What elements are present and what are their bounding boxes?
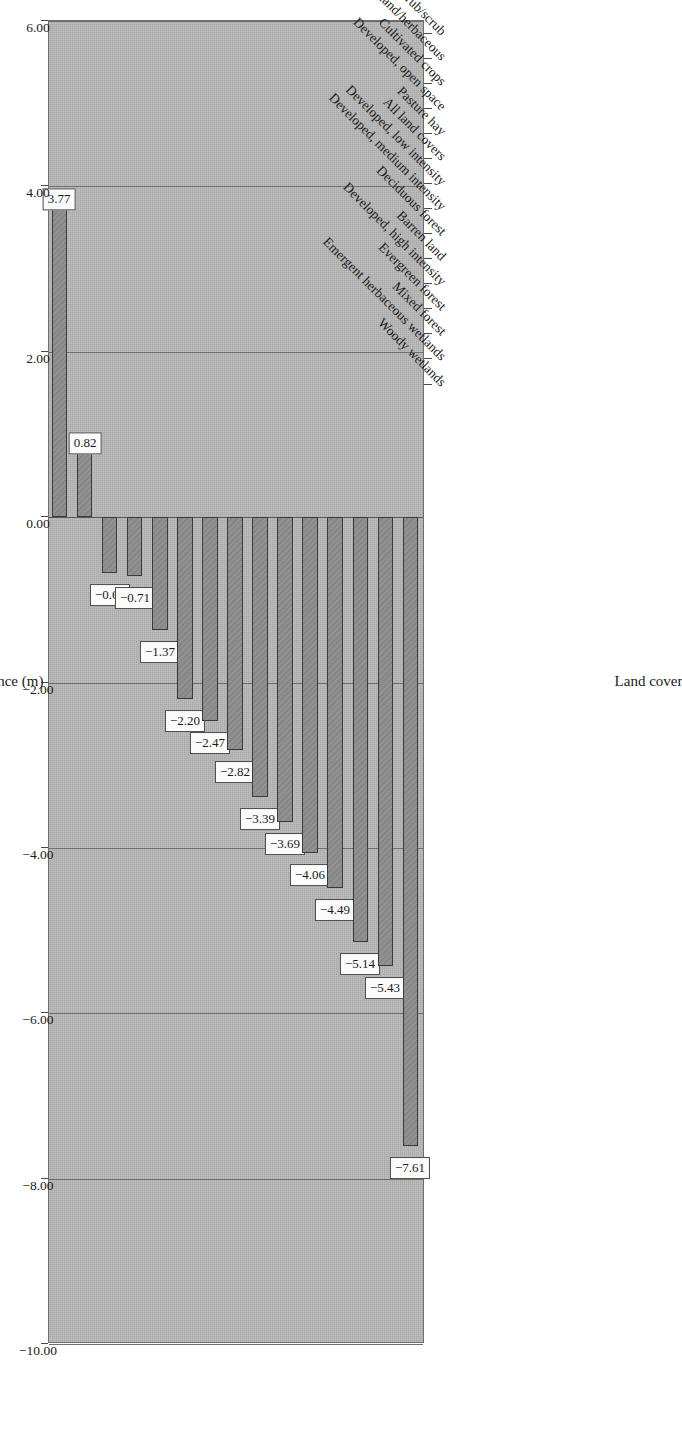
bar	[378, 517, 394, 966]
category-axis-tick	[424, 258, 432, 259]
category-axis-tick	[424, 208, 432, 209]
bar	[252, 517, 268, 797]
category-axis-tick	[424, 358, 432, 359]
bar	[102, 517, 118, 573]
category-axis-tick	[424, 333, 432, 334]
bar-value-label: −3.39	[240, 808, 280, 830]
category-axis-tick	[424, 108, 432, 109]
category-axis-tick	[424, 283, 432, 284]
bar-value-label: −5.43	[365, 977, 405, 999]
bar	[277, 517, 293, 822]
bar-value-label: −1.37	[140, 641, 180, 663]
bar-value-label: −2.47	[190, 732, 230, 754]
gridline	[49, 1344, 423, 1345]
bar-value-label: −3.69	[265, 833, 305, 855]
category-axis-tick	[424, 158, 432, 159]
bar-series: 3.770.82−0.68−0.71−1.37−2.20−2.47−2.82−3…	[49, 21, 423, 1342]
bar	[77, 449, 93, 517]
bar-value-label: −2.20	[165, 710, 205, 732]
category-axis-tick	[424, 133, 432, 134]
bar-value-label: −2.82	[215, 761, 255, 783]
category-axis-tick	[424, 183, 432, 184]
value-axis-tick-label: −10.00	[19, 1343, 57, 1359]
bar	[328, 517, 344, 888]
bar	[202, 517, 218, 721]
bar	[227, 517, 243, 750]
category-axis-tick	[424, 308, 432, 309]
category-axis-title: Land cover	[640, 20, 657, 1343]
category-axis-tick	[424, 83, 432, 84]
bar-value-label: −4.06	[290, 864, 330, 886]
bar	[403, 517, 419, 1146]
value-axis-title-text: Mean difference (m)	[0, 673, 43, 690]
bar	[177, 517, 193, 699]
bar	[303, 517, 319, 853]
bar	[127, 517, 143, 576]
category-axis-tick	[424, 233, 432, 234]
value-axis-title: Mean difference (m)	[0, 20, 48, 1343]
bar-value-label: 0.82	[68, 433, 101, 455]
category-axis-title-text: Land cover	[615, 673, 682, 690]
bar	[353, 517, 369, 942]
bar-value-label: −4.49	[315, 899, 355, 921]
bar	[152, 517, 168, 630]
bar-value-label: −5.14	[340, 953, 380, 975]
bar	[52, 205, 68, 517]
bar-value-label: −0.71	[115, 587, 155, 609]
